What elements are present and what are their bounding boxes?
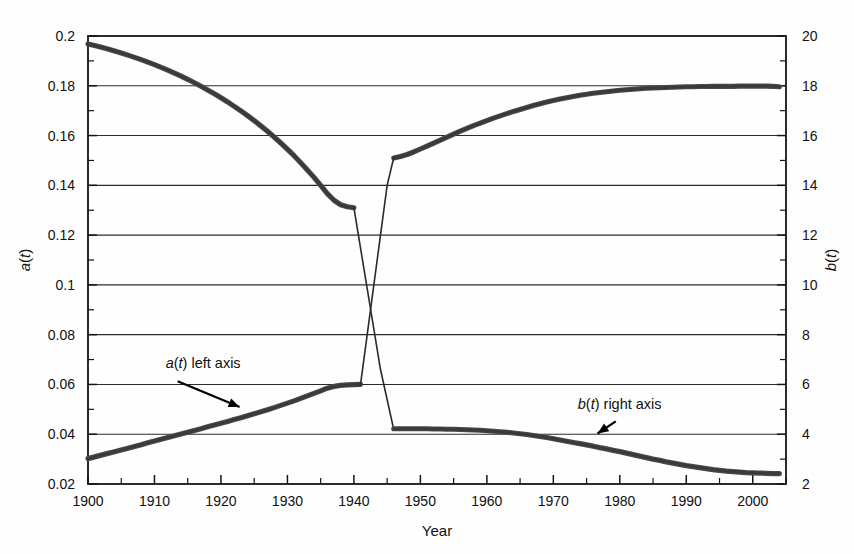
x-tick-label: 1900: [72, 493, 103, 509]
y-left-tick-label: 0.16: [48, 128, 75, 144]
y-right-axis-title: b(t): [822, 249, 839, 272]
svg-text:b(t) right axis: b(t) right axis: [578, 396, 662, 412]
svg-text:b(t): b(t): [822, 249, 839, 272]
x-tick-label: 1990: [671, 493, 702, 509]
y-right-ticks-group: [777, 36, 786, 484]
x-tick-label: 1950: [405, 493, 436, 509]
y-left-tick-label: 0.02: [48, 476, 75, 492]
annotation-arrowhead-b: [598, 424, 610, 434]
y-right-tick-label: 2: [802, 476, 810, 492]
y-left-tick-label: 0.18: [48, 78, 75, 94]
x-tick-label: 1920: [205, 493, 236, 509]
x-tick-label: 2000: [737, 493, 768, 509]
series-segment-postwar-decline-1946-2004: [394, 429, 780, 474]
x-axis-ticks-group: [88, 475, 786, 484]
y-right-tick-label: 20: [802, 28, 818, 44]
chart-figure: 1900191019201930194019501960197019801990…: [0, 0, 854, 554]
y-right-tick-label: 6: [802, 376, 810, 392]
y-left-ticks-group: [88, 36, 97, 484]
y-right-tick-label: 16: [802, 128, 818, 144]
svg-text:a(t): a(t): [16, 249, 33, 272]
svg-text:a(t) left axis: a(t) left axis: [166, 355, 241, 371]
y-right-tick-label: 4: [802, 426, 810, 442]
y-right-tick-label: 18: [802, 78, 818, 94]
y-left-tick-label: 0.08: [48, 327, 75, 343]
series-segment-recovery-1946-2004: [394, 86, 780, 158]
series-segment-decline-1900-1940: [88, 44, 354, 208]
y-left-tick-label: 0.06: [48, 376, 75, 392]
y-left-axis-title: a(t): [16, 249, 33, 272]
x-tick-label: 1930: [272, 493, 303, 509]
x-tick-label: 1980: [604, 493, 635, 509]
y-left-tick-label: 0.04: [48, 426, 75, 442]
series-core-rise-1900-1940: [88, 384, 361, 458]
y-right-tick-label: 8: [802, 327, 810, 343]
annotation-a-left-axis: a(t) left axis: [166, 355, 241, 407]
y-left-tick-label: 0.14: [48, 177, 75, 193]
y-right-tick-label: 10: [802, 277, 818, 293]
series-core-decline-1900-1940: [88, 44, 354, 208]
annotation-arrowhead-a: [228, 399, 240, 407]
y-right-tick-label: 14: [802, 177, 818, 193]
y-left-tick-labels: 0.020.040.060.080.10.120.140.160.180.2: [48, 28, 75, 492]
x-axis-title: Year: [422, 522, 452, 539]
series-core-postwar-decline-1946-2004: [394, 429, 780, 474]
plot-frame: [88, 36, 786, 484]
annotation-b-right-axis: b(t) right axis: [578, 396, 662, 433]
y-left-tick-label: 0.12: [48, 227, 75, 243]
y-right-tick-labels: 2468101214161820: [802, 28, 818, 492]
data-series-group: [88, 44, 779, 474]
x-axis-tick-labels: 1900191019201930194019501960197019801990…: [72, 493, 768, 509]
y-left-tick-label: 0.2: [56, 28, 76, 44]
chart-svg: 1900191019201930194019501960197019801990…: [0, 0, 854, 554]
x-tick-label: 1910: [139, 493, 170, 509]
series-segment-wartime-drop-1940-1946: [354, 208, 394, 430]
x-tick-label: 1960: [471, 493, 502, 509]
y-left-tick-label: 0.1: [56, 277, 76, 293]
x-tick-label: 1970: [538, 493, 569, 509]
x-tick-label: 1940: [338, 493, 369, 509]
gridlines-group: [88, 86, 786, 434]
y-right-tick-label: 12: [802, 227, 818, 243]
